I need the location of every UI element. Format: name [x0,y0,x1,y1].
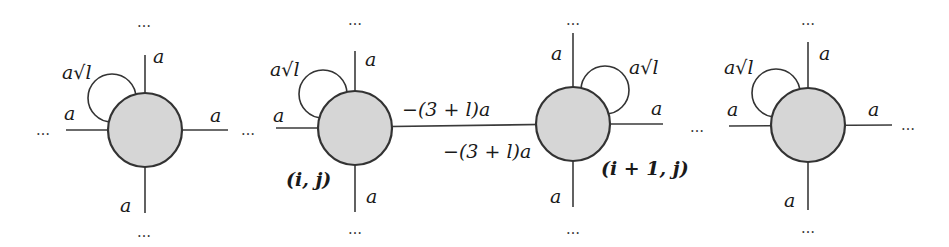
node-3-loop-weight: a√l [629,56,659,78]
node-4-right-ellipsis: … [901,117,915,133]
node-3-left-weight: −(3 + l)a [443,140,531,162]
node-4-group: a a a a a√l … … … [724,12,915,236]
node-2-circle [318,91,392,165]
node-1-bottom-weight: a [120,194,131,216]
node-3-top-ellipsis: … [566,12,580,28]
node-1-group: a a a a a√l … … … [36,14,228,240]
between-3-4-ellipsis: … [690,119,704,135]
node-4-right-weight: a [868,98,879,120]
node-4-bottom-weight: a [784,189,795,211]
node-2-loop-weight: a√l [270,58,300,80]
node-4-top-ellipsis: … [801,12,815,28]
node-3-right-weight: a [651,97,662,119]
node-2-top-weight: a [365,48,376,70]
node-3-circle [536,87,610,161]
node-1-circle [108,93,182,167]
node-1-right-weight: a [210,104,221,126]
node-2-coordinate-label: (i, j) [286,168,331,190]
node-1-left-ellipsis: … [36,122,50,138]
node-2-group: a a −(3 + l)a a a√l (i, j) … … [270,12,573,237]
node-4-bottom-ellipsis: … [801,220,815,236]
node-2-bottom-weight: a [366,185,377,207]
node-3-top-weight: a [551,42,562,64]
between-1-2-ellipsis: … [241,122,255,138]
node-2-left-weight: a [273,104,284,126]
node-3-coordinate-label: (i + 1, j) [601,157,689,179]
node-1-loop-weight: a√l [62,61,92,83]
node-4-left-weight: a [727,98,738,120]
node-2-bottom-ellipsis: … [348,221,362,237]
node-2-right-weight: −(3 + l)a [402,98,490,120]
node-2-top-ellipsis: … [348,12,362,28]
node-4-loop-weight: a√l [724,56,754,78]
node-4-top-weight: a [819,42,830,64]
node-3-bottom-weight: a [550,185,561,207]
node-1-bottom-ellipsis: … [137,224,151,240]
node-1-top-weight: a [153,45,164,67]
node-1-left-weight: a [64,102,75,124]
node-1-top-ellipsis: … [137,14,151,30]
lattice-diagram: a a a a a√l … … … … a a −(3 + l)a a a√l … [0,0,949,247]
node-3-bottom-ellipsis: … [566,221,580,237]
node-4-circle [771,88,845,162]
